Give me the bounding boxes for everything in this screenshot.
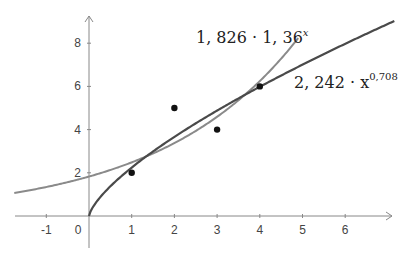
exp-formula-main: 1, 826 · 1, 36 [196, 28, 303, 47]
x-tick-label: 1 [128, 223, 135, 237]
axes [15, 16, 392, 248]
x-tick-label: 0 [75, 223, 82, 237]
x-tick-label: 2 [171, 223, 178, 237]
x-tick-label: -1 [41, 223, 52, 237]
exp-formula-exponent: x [303, 27, 309, 38]
x-tick-label: 6 [342, 223, 349, 237]
data-point [171, 105, 177, 111]
exp-formula-label: 1, 826 · 1, 36x [196, 27, 309, 47]
y-tick-label: 4 [74, 123, 81, 137]
x-tick-label: 4 [256, 223, 263, 237]
power-formula-main: 2, 242 · x [294, 73, 369, 92]
y-tick-label: 6 [74, 79, 81, 93]
data-point [129, 170, 135, 176]
fit-curves [14, 21, 394, 216]
regression-chart: -101234562468 1, 826 · 1, 36x 2, 242 · x… [0, 0, 405, 262]
data-point [214, 126, 220, 132]
power-curve [89, 21, 394, 216]
tick-labels: -101234562468 [41, 36, 349, 237]
y-tick-label: 8 [74, 36, 81, 50]
x-tick-label: 3 [214, 223, 221, 237]
power-formula-label: 2, 242 · x0,708 [294, 71, 398, 92]
data-point [257, 83, 263, 89]
y-tick-label: 2 [74, 166, 81, 180]
exponential-curve [14, 38, 298, 193]
svg-text:1, 826 · 1, 36x: 1, 826 · 1, 36x [196, 27, 309, 47]
x-tick-label: 5 [299, 223, 306, 237]
svg-text:2, 242 · x0,708: 2, 242 · x0,708 [294, 71, 398, 92]
power-formula-exponent: 0,708 [369, 71, 398, 82]
